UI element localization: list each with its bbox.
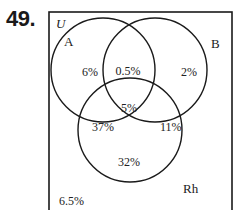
region-only-b: 2% <box>181 65 197 79</box>
region-a-and-rh: 37% <box>92 120 114 134</box>
venn-diagram: U A B Rh 6% 0.5% 2% 5% 37% 11% 32% 6.5% <box>0 0 239 210</box>
region-a-and-b: 0.5% <box>116 64 141 78</box>
set-rh-label: Rh <box>183 181 199 196</box>
set-a-label: A <box>64 34 74 49</box>
region-a-b-rh: 5% <box>121 101 137 115</box>
region-b-and-rh: 11% <box>160 120 182 134</box>
set-b-label: B <box>211 36 220 51</box>
region-none: 6.5% <box>59 194 84 208</box>
region-only-a: 6% <box>82 65 98 79</box>
universe-label: U <box>56 16 67 31</box>
region-only-rh: 32% <box>118 155 140 169</box>
